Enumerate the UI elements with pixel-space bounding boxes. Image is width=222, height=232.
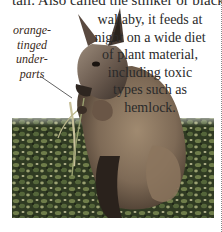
caption-line: types such as xyxy=(90,81,210,99)
document-page: tail. Also called the stinker or black w… xyxy=(0,0,222,232)
caption-line: night on a wide diet xyxy=(90,29,210,47)
annotation-line: tinged xyxy=(6,38,58,53)
continued-text-line: tail. Also called the stinker or black xyxy=(12,0,212,9)
caption-line: hemlock. xyxy=(90,99,210,117)
page-edge-dotted-divider xyxy=(221,0,222,232)
annotation-line: orange- xyxy=(6,23,58,38)
annotation-line: under- xyxy=(6,52,58,67)
caption-body-text: wallaby, it feeds at night on a wide die… xyxy=(90,11,210,116)
caption-line: including toxic xyxy=(90,64,210,82)
annotation-line: parts xyxy=(6,67,58,82)
caption-line: wallaby, it feeds at xyxy=(90,11,210,29)
annotation-label: orange- tinged under- parts xyxy=(6,23,58,81)
caption-line: of plant material, xyxy=(90,46,210,64)
